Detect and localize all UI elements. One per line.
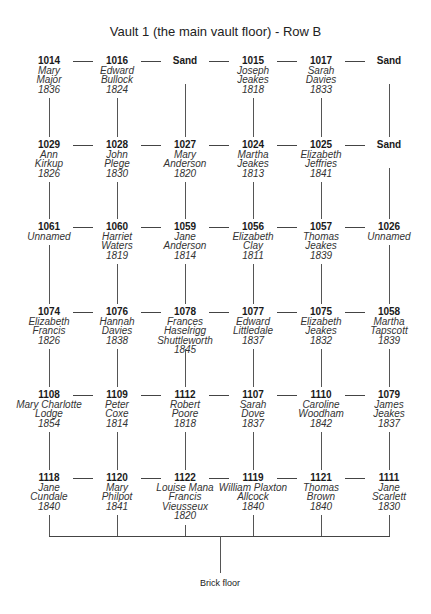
sand-label: Sand: [349, 140, 429, 150]
vertical-connector: [49, 98, 50, 137]
burial-year: 1837: [349, 419, 429, 429]
floor-connector: [185, 525, 186, 537]
floor-connector: [49, 515, 50, 536]
vertical-connector: [321, 349, 322, 387]
burial-year: 1841: [281, 169, 361, 179]
vertical-connector: [253, 264, 254, 304]
vertical-connector: [117, 432, 118, 470]
vertical-connector: [253, 432, 254, 470]
burial-name-line: Unnamed: [349, 232, 429, 242]
brick-floor-label: Brick floor: [190, 578, 250, 588]
burial-year: 1824: [77, 85, 157, 95]
vertical-connector: [185, 432, 186, 470]
floor-connector: [253, 515, 254, 536]
vertical-connector: [49, 432, 50, 470]
vertical-connector: [49, 182, 50, 219]
burial-year: 1820: [145, 511, 225, 521]
vertical-connector: [389, 245, 390, 304]
vertical-connector: [253, 182, 254, 219]
vertical-connector: [321, 264, 322, 304]
vertical-connector: [321, 432, 322, 470]
floor-connector: [321, 515, 322, 536]
floor-connector: [389, 515, 390, 536]
floor-drop-line: [220, 536, 221, 573]
sand-marker: Sand: [349, 140, 429, 150]
vertical-connector: [49, 349, 50, 387]
sand-label: Sand: [349, 56, 429, 66]
vertical-connector: [253, 98, 254, 137]
sand-marker: Sand: [349, 56, 429, 66]
vertical-connector: [321, 182, 322, 219]
burial-year: 1830: [349, 502, 429, 512]
floor-connector: [117, 515, 118, 536]
burial-year: 1839: [349, 336, 429, 346]
burial-entry: 1111JaneScarlett1830: [349, 473, 429, 511]
vertical-connector: [185, 182, 186, 219]
vertical-connector: [185, 84, 186, 137]
vertical-connector: [185, 264, 186, 304]
vertical-connector: [117, 98, 118, 137]
vertical-connector: [117, 182, 118, 219]
burial-entry: 1058MarthaTapscott1839: [349, 307, 429, 345]
vertical-connector: [321, 98, 322, 137]
vertical-connector: [49, 245, 50, 304]
burial-entry: 1079JamesJeakes1837: [349, 390, 429, 428]
burial-entry: 1026Unnamed: [349, 222, 429, 241]
vertical-connector: [389, 432, 390, 470]
diagram-title: Vault 1 (the main vault floor) - Row B: [0, 24, 431, 39]
vertical-connector: [389, 84, 390, 137]
vertical-connector: [117, 349, 118, 387]
vertical-connector: [253, 349, 254, 387]
vertical-connector: [117, 264, 118, 304]
burial-year: 1839: [281, 251, 361, 261]
burial-year: 1833: [281, 85, 361, 95]
vertical-connector: [185, 349, 186, 387]
vertical-connector: [389, 349, 390, 387]
vertical-connector: [389, 168, 390, 219]
